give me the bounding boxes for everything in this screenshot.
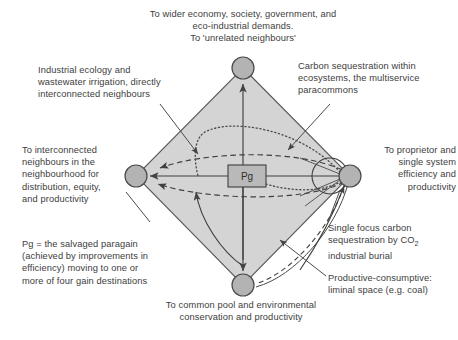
label-pg-definition: Pg = the salvaged paragain (achieved by …: [22, 238, 197, 287]
label-carbon-sequestration: Carbon sequestration within ecosystems, …: [298, 60, 454, 97]
pg-box-label: Pg: [241, 171, 253, 182]
single-focus-line1: Single focus carbon: [328, 223, 411, 233]
label-proprietor: To proprietor and single system efficien…: [352, 144, 456, 193]
leader-productive-consumptive: [280, 240, 326, 276]
single-focus-line3: industrial burial: [328, 251, 392, 261]
single-focus-line2: sequestration by CO: [328, 235, 415, 245]
common-pool-node: [232, 274, 254, 296]
label-productive-consumptive: Productive-consumptive: liminal space (e…: [328, 272, 458, 296]
label-single-focus-carbon: Single focus carbonsequestration by CO2i…: [328, 222, 456, 262]
label-wider-economy: To wider economy, society, government, a…: [118, 8, 368, 45]
co2-subscript: 2: [415, 239, 419, 248]
wider-economy-node: [232, 57, 254, 79]
label-industrial-ecology: Industrial ecology and wastewater irriga…: [38, 64, 190, 101]
label-interconnected: To interconnected neighbours in the neig…: [22, 144, 132, 205]
label-common-pool: To common pool and environmental conserv…: [133, 299, 349, 323]
